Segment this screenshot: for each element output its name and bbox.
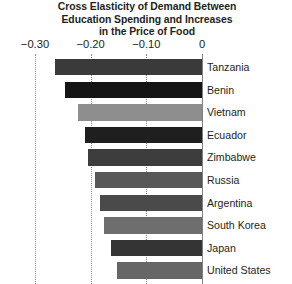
bar-row: Ecuador [0, 124, 292, 147]
bar [100, 195, 202, 211]
bar-row: Vietnam [0, 101, 292, 124]
bar [55, 59, 202, 75]
bar-row: Tanzania [0, 56, 292, 79]
bar [111, 240, 202, 256]
chart-title: Cross Elasticity of Demand Between Educa… [30, 1, 264, 39]
bar-category-label: Tanzania [207, 59, 249, 75]
chart-title-line-2: Education Spending and Increases [30, 14, 264, 27]
bar-category-label: Argentina [207, 195, 252, 211]
bar-category-label: Russia [207, 172, 239, 188]
plot-area: −0.30−0.20−0.100 TanzaniaBeninVietnamEcu… [0, 38, 292, 284]
bar-row: Japan [0, 237, 292, 260]
x-axis-tick-label: −0.30 [21, 38, 49, 51]
bar-row: Argentina [0, 192, 292, 215]
bar [117, 262, 202, 278]
bar [78, 104, 202, 120]
bar [88, 149, 202, 165]
bar-row: United States [0, 259, 292, 282]
bar-category-label: Japan [207, 240, 236, 256]
bar-category-label: Ecuador [207, 127, 246, 143]
bar-row: Zimbabwe [0, 146, 292, 169]
x-axis-tick-label: −0.20 [77, 38, 105, 51]
x-axis-tick-label: −0.10 [132, 38, 160, 51]
bar [85, 127, 202, 143]
bar-category-label: South Korea [207, 217, 266, 233]
bar-category-label: United States [207, 262, 271, 278]
bar-row: Russia [0, 169, 292, 192]
x-axis-tick-labels: −0.30−0.20−0.100 [0, 38, 292, 54]
bar [95, 172, 202, 188]
bar-row: South Korea [0, 214, 292, 237]
chart-title-line-1: Cross Elasticity of Demand Between [30, 1, 264, 14]
bar [104, 217, 202, 233]
bar-row: Benin [0, 79, 292, 102]
bars-layer: TanzaniaBeninVietnamEcuadorZimbabweRussi… [0, 54, 292, 284]
bar-category-label: Zimbabwe [207, 149, 256, 165]
x-axis-tick-label: 0 [199, 38, 205, 51]
bar-category-label: Vietnam [207, 104, 246, 120]
cross-elasticity-bar-chart: Cross Elasticity of Demand Between Educa… [0, 0, 292, 284]
chart-title-line-3: in the Price of Food [30, 26, 264, 39]
bar [65, 82, 202, 98]
bar-category-label: Benin [207, 82, 234, 98]
